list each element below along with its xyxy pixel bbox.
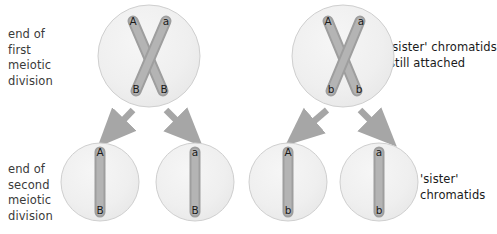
cell-top-right: A a b b	[292, 5, 394, 107]
cell-bottom-3: A b	[249, 143, 327, 221]
arrow-top-right-to-bottom-4	[360, 110, 384, 134]
allele-label-top: A	[96, 146, 104, 158]
allele-label-b-right: b	[356, 83, 363, 95]
cell-bottom-4: a b	[340, 143, 418, 221]
diagram-canvas: end of first meiotic division end of sec…	[0, 0, 497, 234]
allele-label-top: a	[376, 146, 382, 158]
allele-label-bottom: B	[96, 204, 103, 216]
allele-label-a: a	[358, 15, 364, 27]
meiosis-svg: A a B B A a b b	[0, 0, 497, 234]
allele-label-bottom: b	[285, 204, 292, 216]
arrow-top-left-to-bottom-1	[110, 110, 133, 134]
cell-bottom-2: a B	[156, 143, 234, 221]
cell-bottom-1: A B	[61, 143, 139, 221]
arrow-line	[110, 110, 133, 134]
arrow-top-left-to-bottom-2	[166, 110, 190, 134]
cell-top-left: A a B B	[98, 5, 200, 107]
allele-label-top: A	[284, 146, 292, 158]
allele-label-B-right: B	[160, 83, 167, 95]
allele-label-bottom: b	[376, 204, 383, 216]
arrow-line	[166, 110, 190, 134]
allele-label-A: A	[129, 15, 137, 27]
arrow-line	[299, 110, 327, 134]
arrow-top-right-to-bottom-3	[299, 110, 327, 134]
allele-label-top: a	[192, 146, 198, 158]
allele-label-bottom: B	[191, 204, 198, 216]
allele-label-A: A	[324, 15, 332, 27]
arrow-line	[360, 110, 384, 134]
allele-label-B-left: B	[132, 83, 139, 95]
allele-label-a: a	[163, 15, 169, 27]
allele-label-b-left: b	[328, 83, 335, 95]
